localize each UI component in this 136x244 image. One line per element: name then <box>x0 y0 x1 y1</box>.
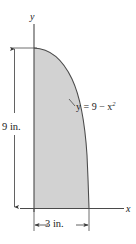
curve-equation-exponent: 2 <box>112 100 115 107</box>
figure-container: y x 9 in. 3 in. y = 9 − x2 <box>0 0 136 244</box>
curve-equation-label: y = 9 − x2 <box>76 101 116 112</box>
dimension-label-width: 3 in. <box>45 219 64 230</box>
dimension-label-height: 9 in. <box>2 122 21 133</box>
axis-label-x: x <box>126 204 130 214</box>
shaded-region <box>34 48 89 208</box>
axis-label-y: y <box>30 12 34 22</box>
curve-equation-text: y = 9 − x <box>76 101 112 112</box>
